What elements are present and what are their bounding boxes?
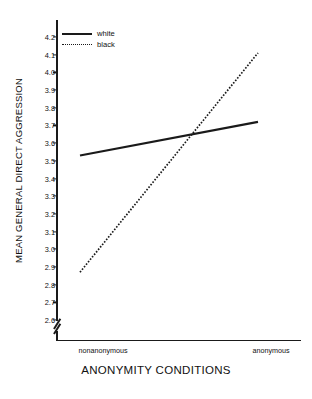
plot-area: 4.24.14.03.93.83.73.63.53.43.33.23.13.02… (0, 0, 312, 399)
legend-label-black: black (97, 40, 115, 49)
series-line-black (80, 53, 258, 272)
legend-swatch-solid-icon (62, 29, 92, 38)
legend: white black (62, 28, 142, 50)
legend-item-white[interactable]: white (62, 28, 142, 39)
series-layer (0, 0, 312, 399)
series-line-white (80, 122, 258, 156)
x-axis-title: ANONYMITY CONDITIONS (0, 364, 312, 376)
legend-item-black[interactable]: black (62, 39, 142, 50)
legend-swatch-dotted-icon (62, 40, 92, 49)
legend-label-white: white (97, 29, 115, 38)
line-chart: MEAN GENERAL DIRECT AGGRESSION 4.24.14.0… (0, 0, 312, 399)
